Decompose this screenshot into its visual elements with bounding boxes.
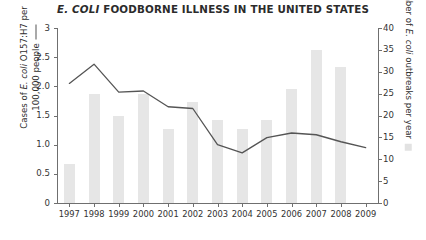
right-tick-label: 20 (383, 111, 411, 120)
x-tick-label: 2009 (351, 210, 381, 218)
x-tick (94, 204, 95, 207)
right-tick-label: 0 (383, 199, 411, 208)
x-tick (168, 204, 169, 207)
line-series (57, 28, 378, 203)
right-tick-label: 25 (383, 89, 411, 98)
left-axis-title-pre: Cases of (19, 90, 29, 129)
x-tick (143, 204, 144, 207)
left-tick-label: 2.5 (20, 53, 50, 62)
right-tick-label: 30 (383, 67, 411, 76)
chart-title: E. COLI FOODBORNE ILLNESS IN THE UNITED … (0, 3, 426, 15)
x-tick (69, 204, 70, 207)
right-tick (379, 72, 382, 73)
plot-area (57, 28, 378, 203)
right-tick (379, 137, 382, 138)
left-tick-label: 0.5 (20, 169, 50, 178)
x-tick (218, 204, 219, 207)
right-tick-label: 10 (383, 155, 411, 164)
chart-figure: E. COLI FOODBORNE ILLNESS IN THE UNITED … (0, 0, 426, 240)
chart-title-emphasis: E. COLI (57, 3, 100, 15)
x-tick (119, 204, 120, 207)
right-tick (379, 50, 382, 51)
right-tick (379, 28, 382, 29)
right-tick (379, 203, 382, 204)
x-tick (242, 204, 243, 207)
left-tick-label: 3 (20, 24, 50, 33)
right-tick-label: 35 (383, 45, 411, 54)
x-tick (292, 204, 293, 207)
left-tick (54, 203, 57, 204)
right-tick (379, 181, 382, 182)
chart-title-rest: FOODBORNE ILLNESS IN THE UNITED STATES (99, 3, 369, 15)
x-tick (316, 204, 317, 207)
right-tick-label: 15 (383, 133, 411, 142)
x-tick (341, 204, 342, 207)
x-tick (267, 204, 268, 207)
right-tick (379, 116, 382, 117)
left-tick-label: 0 (20, 199, 50, 208)
x-tick (193, 204, 194, 207)
line-series-path (69, 64, 365, 153)
left-tick-label: 2.0 (20, 82, 50, 91)
right-tick (379, 94, 382, 95)
x-tick (366, 204, 367, 207)
right-tick-label: 40 (383, 24, 411, 33)
left-tick-label: 1.5 (20, 111, 50, 120)
left-tick-label: 1.0 (20, 140, 50, 149)
bar-series-legend-marker (405, 144, 412, 151)
right-tick (379, 159, 382, 160)
right-tick-label: 5 (383, 177, 411, 186)
